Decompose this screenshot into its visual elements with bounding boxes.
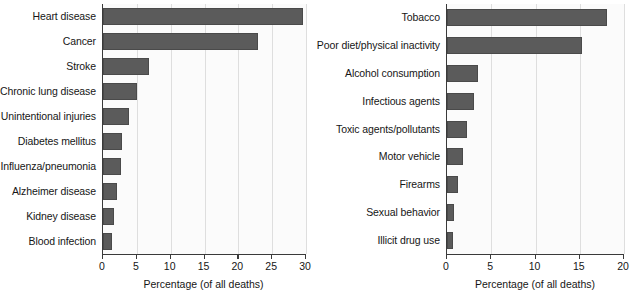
bar-row [103, 54, 306, 79]
bar [447, 9, 607, 26]
category-label: Chronic lung disease [0, 79, 101, 104]
x-tick-label: 15 [198, 260, 210, 272]
bar-row [103, 229, 306, 254]
bar-row [447, 226, 624, 254]
bar-row [447, 171, 624, 199]
x-tick-label: 15 [573, 260, 585, 272]
category-label: Tobacco [320, 4, 445, 32]
bar-row [447, 115, 624, 143]
bar [103, 183, 117, 200]
chart-panel-leading-causes: Heart diseaseCancerStrokeChronic lung di… [0, 0, 320, 296]
bar-series-right [447, 4, 624, 254]
bar-row [447, 60, 624, 88]
gridline [624, 4, 625, 254]
category-label: Influenza/pneumonia [0, 154, 101, 179]
bar [447, 121, 467, 138]
bar-row [447, 32, 624, 60]
bar [447, 93, 474, 110]
category-label: Heart disease [0, 4, 101, 29]
category-label: Firearms [320, 171, 445, 199]
bar [447, 176, 458, 193]
gridline [306, 4, 307, 254]
x-tick-label: 25 [265, 260, 277, 272]
x-tick [271, 255, 272, 259]
category-label: Blood infection [0, 229, 101, 254]
category-label: Unintentional injuries [0, 104, 101, 129]
bar [447, 232, 453, 249]
bar-row [103, 79, 306, 104]
category-label: Alcohol consumption [320, 60, 445, 88]
x-tick-label: 5 [487, 260, 493, 272]
x-tick-label: 30 [299, 260, 311, 272]
bar-row [447, 198, 624, 226]
category-label: Sexual behavior [320, 198, 445, 226]
category-label: Alzheimer disease [0, 179, 101, 204]
category-label: Illicit drug use [320, 226, 445, 254]
two-panel-bar-chart-figure: Heart diseaseCancerStrokeChronic lung di… [0, 0, 639, 296]
category-label: Toxic agents/pollutants [320, 115, 445, 143]
bar [103, 158, 121, 175]
bar [447, 204, 454, 221]
bar-row [103, 154, 306, 179]
bar-row [447, 4, 624, 32]
x-axis-title-right: Percentage (of all deaths) [437, 278, 633, 290]
x-axis-ticks-right: 05101520 [446, 255, 623, 277]
category-label: Motor vehicle [320, 143, 445, 171]
category-label: Infectious agents [320, 87, 445, 115]
bar [103, 8, 303, 25]
bar-row [103, 179, 306, 204]
plot-area-left [102, 4, 306, 254]
bar-row [103, 29, 306, 54]
x-tick-label: 10 [164, 260, 176, 272]
x-tick [490, 255, 491, 259]
x-tick [446, 255, 447, 259]
x-tick [623, 255, 624, 259]
bar-row [103, 129, 306, 154]
x-tick [102, 255, 103, 259]
bar [103, 208, 114, 225]
bar [447, 148, 463, 165]
x-tick-label: 0 [99, 260, 105, 272]
x-tick [237, 255, 238, 259]
bar [447, 37, 582, 54]
bar-row [103, 204, 306, 229]
plot-area-right [446, 4, 624, 254]
x-tick-label: 20 [617, 260, 629, 272]
bar [447, 65, 478, 82]
bar-row [103, 104, 306, 129]
bar-row [447, 143, 624, 171]
x-tick [170, 255, 171, 259]
category-label: Kidney disease [0, 204, 101, 229]
x-axis-ticks-left: 051015202530 [102, 255, 305, 277]
bar [103, 133, 122, 150]
x-tick [579, 255, 580, 259]
category-label: Cancer [0, 29, 101, 54]
x-tick-label: 5 [133, 260, 139, 272]
bar-series-left [103, 4, 306, 254]
bar [103, 233, 112, 250]
x-tick [136, 255, 137, 259]
bar [103, 108, 129, 125]
category-label: Poor diet/physical inactivity [320, 32, 445, 60]
x-tick-label: 0 [443, 260, 449, 272]
category-label-column-right: TobaccoPoor diet/physical inactivityAlco… [320, 4, 445, 254]
chart-panel-actual-causes: TobaccoPoor diet/physical inactivityAlco… [320, 0, 639, 296]
bar [103, 58, 149, 75]
x-tick [305, 255, 306, 259]
x-tick-label: 20 [231, 260, 243, 272]
category-label: Diabetes mellitus [0, 129, 101, 154]
x-axis-title-left: Percentage (of all deaths) [102, 278, 305, 290]
category-label-column-left: Heart diseaseCancerStrokeChronic lung di… [0, 4, 101, 254]
x-tick [535, 255, 536, 259]
bar [103, 33, 258, 50]
category-label: Stroke [0, 54, 101, 79]
x-tick-label: 10 [529, 260, 541, 272]
bar [103, 83, 137, 100]
bar-row [103, 4, 306, 29]
x-tick [204, 255, 205, 259]
bar-row [447, 87, 624, 115]
